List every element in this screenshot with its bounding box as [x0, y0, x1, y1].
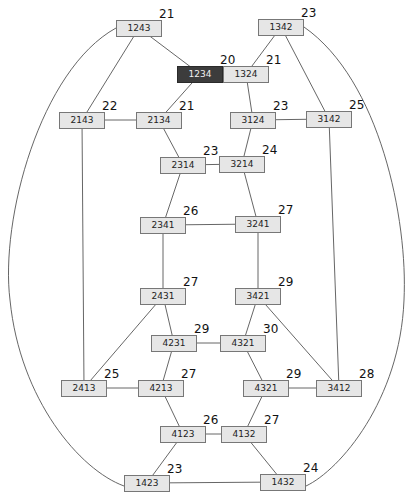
node-score-2341: 26 — [183, 205, 198, 217]
node-score-4321: 30 — [263, 323, 278, 335]
node-3421[interactable]: 3421 — [235, 288, 281, 305]
node-score-2134: 21 — [179, 100, 194, 112]
node-2143[interactable]: 2143 — [59, 112, 105, 129]
node-4321[interactable]: 4321 — [220, 335, 266, 352]
node-score-3241: 27 — [278, 204, 293, 216]
node-score-4231: 29 — [194, 323, 209, 335]
node-score-4132: 27 — [264, 414, 279, 426]
arc-edge-left — [8, 28, 124, 486]
node-1234-selected[interactable]: 1234 — [177, 66, 223, 83]
node-2314[interactable]: 2314 — [160, 157, 206, 174]
node-1324[interactable]: 1324 — [223, 66, 269, 83]
node-1423[interactable]: 1423 — [124, 475, 170, 492]
node-score-1234: 20 — [220, 54, 235, 66]
node-2431[interactable]: 2431 — [140, 288, 186, 305]
node-4231[interactable]: 4231 — [151, 335, 197, 352]
node-3214[interactable]: 3214 — [219, 156, 265, 173]
node-3241[interactable]: 3241 — [235, 216, 281, 233]
node-3142[interactable]: 3142 — [306, 111, 352, 128]
node-score-1243: 21 — [159, 8, 174, 20]
node-2413[interactable]: 2413 — [61, 380, 107, 397]
node-3124[interactable]: 3124 — [230, 112, 276, 129]
node-3412[interactable]: 3412 — [316, 380, 362, 397]
node-score-2413: 25 — [104, 368, 119, 380]
node-2341[interactable]: 2341 — [140, 217, 186, 234]
node-1342[interactable]: 1342 — [258, 19, 304, 36]
edge-3142-3412 — [329, 119, 339, 388]
node-4213[interactable]: 4213 — [138, 380, 184, 397]
node-score-2431: 27 — [183, 276, 198, 288]
node-score-3412: 28 — [359, 368, 374, 380]
node-score-1423: 23 — [167, 463, 182, 475]
node-score-1342: 23 — [301, 7, 316, 19]
node-score-4123: 26 — [203, 414, 218, 426]
node-1243[interactable]: 1243 — [116, 20, 162, 37]
node-score-3421: 29 — [278, 276, 293, 288]
node-score-4321: 29 — [286, 368, 301, 380]
node-score-2143: 22 — [102, 100, 117, 112]
node-4132[interactable]: 4132 — [221, 426, 267, 443]
node-score-1324: 21 — [266, 54, 281, 66]
node-1432[interactable]: 1432 — [260, 474, 306, 491]
node-score-1432: 24 — [303, 462, 318, 474]
node-score-3214: 24 — [262, 144, 277, 156]
node-score-3124: 23 — [273, 100, 288, 112]
arc-edge-right — [304, 27, 404, 486]
node-4321[interactable]: 4321 — [243, 380, 289, 397]
node-2134[interactable]: 2134 — [136, 112, 182, 129]
node-score-4213: 27 — [181, 368, 196, 380]
node-4123[interactable]: 4123 — [160, 426, 206, 443]
node-score-3142: 25 — [349, 99, 364, 111]
edge-2143-2413 — [82, 120, 84, 388]
node-score-2314: 23 — [203, 145, 218, 157]
